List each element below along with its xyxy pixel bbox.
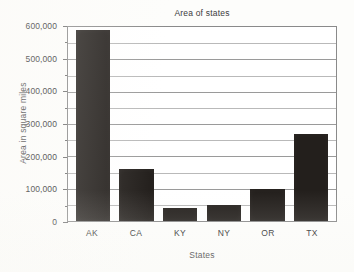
- x-tick-label-or: OR: [246, 228, 290, 238]
- y-tick-label: 200,000: [26, 152, 57, 162]
- x-tick-label-ca: CA: [114, 228, 158, 238]
- bar-tx[interactable]: [294, 134, 328, 221]
- bar-slot: [71, 27, 115, 221]
- y-tick-mark: [63, 222, 68, 223]
- x-axis-tick-labels: AKCAKYNYORTX: [67, 228, 337, 238]
- y-tick-label: 100,000: [26, 184, 57, 194]
- bar-ny[interactable]: [207, 205, 241, 221]
- bar-ak[interactable]: [76, 30, 110, 221]
- y-tick-label: 0: [52, 217, 57, 227]
- bar-or[interactable]: [250, 189, 284, 221]
- x-tick-label-ky: KY: [158, 228, 202, 238]
- bar-chart-figure: Area of states Area in square miles 0100…: [0, 0, 354, 272]
- x-tick-label-ny: NY: [202, 228, 246, 238]
- y-tick-label: 500,000: [26, 54, 57, 64]
- y-tick-label: 400,000: [26, 86, 57, 96]
- bar-slot: [158, 27, 202, 221]
- y-tick-label: 600,000: [26, 21, 57, 31]
- bar-ca[interactable]: [119, 169, 153, 221]
- plot-area: [67, 26, 337, 222]
- chart-title: Area of states: [67, 8, 337, 18]
- bar-slot: [202, 27, 246, 221]
- bars-layer: [68, 27, 336, 221]
- x-axis-title: States: [67, 250, 337, 260]
- y-tick-label: 300,000: [26, 119, 57, 129]
- bar-slot: [115, 27, 159, 221]
- x-tick-label-ak: AK: [70, 228, 114, 238]
- bar-slot: [246, 27, 290, 221]
- y-axis-tick-labels: 0100,000200,000300,000400,000500,000600,…: [0, 26, 63, 222]
- bar-ky[interactable]: [163, 208, 197, 221]
- bar-slot: [289, 27, 333, 221]
- x-tick-label-tx: TX: [290, 228, 334, 238]
